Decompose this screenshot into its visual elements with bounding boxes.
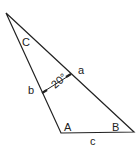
dimension-arrow-right [66, 74, 71, 77]
triangle-shape [6, 13, 134, 133]
triangle-diagram: 20° C A B a b c [0, 0, 140, 153]
vertex-label-a: A [64, 121, 72, 133]
dimension-label: 20° [49, 71, 69, 91]
vertex-label-c: C [22, 36, 30, 48]
vertex-label-b: B [112, 121, 119, 133]
side-label-a: a [78, 64, 85, 76]
side-label-c: c [90, 135, 96, 147]
side-label-b: b [28, 84, 34, 96]
dimension-arrow-left [42, 90, 47, 93]
